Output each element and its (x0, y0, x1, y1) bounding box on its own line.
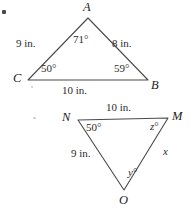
angle-label-N-value: 50 (86, 121, 97, 133)
side-label-NO: 9 in. (71, 148, 91, 159)
scan-speck (33, 117, 36, 119)
side-label-CA: 9 in. (16, 38, 36, 49)
geometry-figure: A B C 71° 59° 50° 9 in. 8 in. 10 in. N M… (0, 0, 196, 211)
side-label-CB: 10 in. (62, 85, 87, 96)
side-label-AB: 8 in. (112, 38, 132, 49)
angle-label-A: 71° (73, 34, 88, 45)
angle-label-O: y° (128, 167, 137, 178)
scan-speck (31, 86, 33, 88)
angle-label-B: 59° (114, 63, 129, 74)
scan-speck (2, 10, 6, 14)
side-label-NM: 10 in. (106, 102, 131, 113)
side-label-MO: x (163, 146, 168, 157)
angle-label-C: 50° (41, 63, 56, 74)
angle-label-M: z° (150, 121, 159, 132)
degree-symbol-icon: ° (52, 62, 56, 74)
degree-symbol-icon: ° (125, 62, 129, 74)
angle-label-B-value: 59 (114, 62, 125, 74)
degree-symbol-icon: ° (154, 120, 158, 132)
figure-drawing-canvas (0, 0, 196, 211)
vertex-label-O: O (119, 194, 128, 207)
vertex-label-M: M (172, 110, 182, 123)
vertex-label-A: A (83, 1, 91, 14)
angle-label-C-value: 50 (41, 62, 52, 74)
degree-symbol-icon: ° (133, 166, 137, 178)
vertex-label-C: C (13, 72, 21, 85)
vertex-label-N: N (62, 111, 70, 124)
angle-label-A-value: 71 (73, 33, 84, 45)
degree-symbol-icon: ° (97, 121, 101, 133)
degree-symbol-icon: ° (84, 33, 88, 45)
angle-label-N: 50° (86, 122, 101, 133)
vertex-label-B: B (151, 79, 159, 92)
